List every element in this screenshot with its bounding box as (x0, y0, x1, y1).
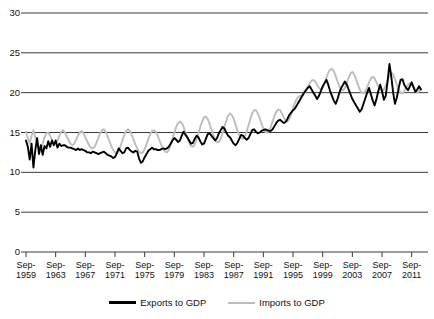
x-label-year: 1963 (41, 270, 71, 280)
x-label-month: Sep- (308, 260, 338, 270)
legend-entry-exports: Exports to GDP (109, 297, 206, 308)
y-axis-label-30: 30 (0, 8, 20, 18)
x-axis-label-1963: Sep-1963 (41, 260, 71, 280)
x-label-year: 1995 (278, 270, 308, 280)
x-label-month: Sep- (159, 260, 189, 270)
x-axis-label-1987: Sep-1987 (219, 260, 249, 280)
chart-container: 051015202530 Sep-1959Sep-1963Sep-1967Sep… (0, 0, 434, 319)
y-axis-label-10: 10 (0, 167, 20, 177)
x-label-month: Sep- (397, 260, 427, 270)
x-label-month: Sep- (189, 260, 219, 270)
legend-swatch-imports (228, 302, 255, 304)
x-label-month: Sep- (219, 260, 249, 270)
x-label-month: Sep- (248, 260, 278, 270)
x-label-year: 1975 (130, 270, 160, 280)
chart-legend: Exports to GDP Imports to GDP (0, 297, 434, 308)
x-axis-label-1983: Sep-1983 (189, 260, 219, 280)
x-label-month: Sep- (337, 260, 367, 270)
legend-entry-imports: Imports to GDP (228, 297, 324, 308)
x-axis-label-1999: Sep-1999 (308, 260, 338, 280)
y-axis-label-25: 25 (0, 48, 20, 58)
y-axis-label-15: 15 (0, 128, 20, 138)
x-axis-label-2011: Sep-2011 (397, 260, 427, 280)
series-line-imports-to-gdp (26, 69, 421, 153)
x-axis-label-1967: Sep-1967 (70, 260, 100, 280)
x-axis-label-1979: Sep-1979 (159, 260, 189, 280)
x-label-month: Sep- (70, 260, 100, 270)
series-line-exports-to-gdp (26, 64, 421, 168)
x-axis-label-2003: Sep-2003 (337, 260, 367, 280)
x-label-month: Sep- (41, 260, 71, 270)
x-axis-label-2007: Sep-2007 (367, 260, 397, 280)
x-label-year: 2003 (337, 270, 367, 280)
x-label-year: 1991 (248, 270, 278, 280)
x-label-year: 2007 (367, 270, 397, 280)
x-label-year: 1983 (189, 270, 219, 280)
x-axis-label-1971: Sep-1971 (100, 260, 130, 280)
x-label-year: 1979 (159, 270, 189, 280)
y-axis-label-0: 0 (0, 247, 20, 257)
legend-label-exports: Exports to GDP (140, 297, 206, 308)
x-label-year: 1999 (308, 270, 338, 280)
x-axis-label-1959: Sep-1959 (11, 260, 41, 280)
x-label-year: 1967 (70, 270, 100, 280)
legend-label-imports: Imports to GDP (259, 297, 324, 308)
x-label-year: 1987 (219, 270, 249, 280)
x-label-month: Sep- (278, 260, 308, 270)
x-axis-label-1975: Sep-1975 (130, 260, 160, 280)
x-label-month: Sep- (130, 260, 160, 270)
x-label-year: 1971 (100, 270, 130, 280)
legend-swatch-exports (109, 301, 136, 304)
y-axis-label-20: 20 (0, 88, 20, 98)
x-label-month: Sep- (367, 260, 397, 270)
x-axis-label-1995: Sep-1995 (278, 260, 308, 280)
x-label-month: Sep- (100, 260, 130, 270)
x-label-year: 2011 (397, 270, 427, 280)
x-axis-label-1991: Sep-1991 (248, 260, 278, 280)
y-axis-label-5: 5 (0, 207, 20, 217)
x-axis-ticks (26, 252, 412, 257)
x-label-year: 1959 (11, 270, 41, 280)
x-label-month: Sep- (11, 260, 41, 270)
